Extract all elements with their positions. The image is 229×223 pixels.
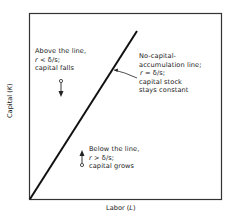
above-line-text-1: Above the line, (35, 47, 86, 56)
inequality-text: > δ/s; (92, 154, 114, 162)
above-line-annotation: Above the line, r < δ/s; capital falls (35, 47, 86, 73)
arrow-up-icon (80, 150, 85, 167)
equality-text: = δ/s; (143, 69, 165, 77)
y-axis-label: Capital (K) (6, 83, 14, 118)
below-line-text-3: capital grows (89, 162, 139, 171)
pointer-arrowhead-icon (114, 69, 118, 73)
below-line-annotation: Below the line, r > δ/s; capital grows (89, 145, 139, 171)
above-line-text-3: capital falls (35, 64, 86, 73)
x-axis-label: Labor (L) (106, 204, 136, 212)
plot-frame (30, 14, 222, 200)
below-line-text-2: r > δ/s; (89, 154, 139, 163)
diagram-canvas (0, 0, 229, 223)
below-line-text-1: Below the line, (89, 145, 139, 154)
line-note-text-4: capital stock (139, 78, 202, 87)
line-note-text-1: No-capital- (139, 52, 202, 61)
x-axis-text: Labor ( (106, 204, 129, 212)
y-axis-var: K (6, 86, 14, 90)
paren: ) (133, 204, 136, 212)
above-line-text-2: r < δ/s; (35, 56, 86, 65)
line-note-text-2: accumulation line; (139, 61, 202, 70)
line-note-text-5: stays constant (139, 86, 202, 95)
line-annotation: No-capital- accumulation line; r = δ/s; … (139, 52, 202, 95)
line-note-text-3: r = δ/s; (139, 69, 202, 78)
inequality-text: < δ/s; (38, 56, 60, 64)
arrow-down-icon (59, 79, 64, 97)
paren: ) (6, 83, 14, 86)
y-axis-text: Capital ( (6, 90, 14, 118)
